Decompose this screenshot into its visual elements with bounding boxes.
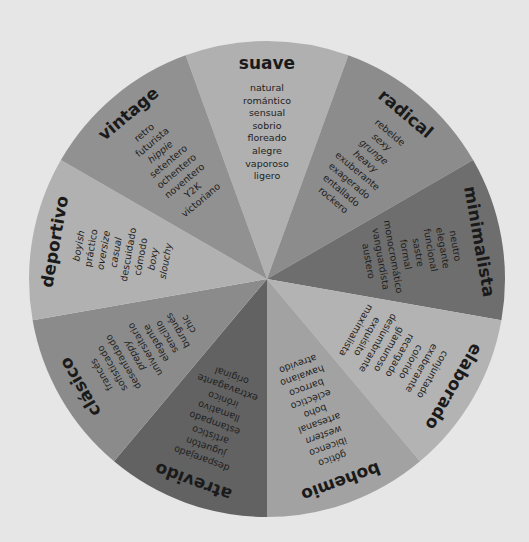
style-term: sensual <box>249 107 285 118</box>
style-term: ligero <box>254 170 281 181</box>
style-wheel: suavenaturalrománticosensualsobrioflorea… <box>0 0 529 542</box>
style-term: alegre <box>252 145 282 156</box>
segment-title: suave <box>239 53 295 73</box>
style-term: floreado <box>247 132 286 143</box>
style-term: romántico <box>243 95 291 106</box>
style-term: natural <box>250 82 284 93</box>
style-term: vaporoso <box>245 158 289 169</box>
style-term: sobrio <box>252 120 281 131</box>
